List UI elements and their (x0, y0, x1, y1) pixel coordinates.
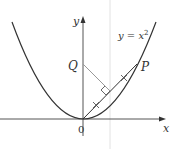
point-q-label: Q (68, 59, 78, 73)
right-angle-marker (101, 86, 110, 95)
x-axis-label: x (163, 122, 170, 135)
y-axis-arrow-icon (81, 16, 86, 23)
point-p-label: P (140, 60, 150, 74)
perpendicular-qm (83, 64, 110, 91)
curve-equation-label: y = x2 (117, 29, 149, 41)
origin-label: 0 (78, 124, 84, 135)
parabola-diagram: y x 0 Q P y = x2 (0, 0, 173, 149)
y-axis-label: y (72, 15, 80, 28)
x-axis-arrow-icon (159, 117, 166, 122)
